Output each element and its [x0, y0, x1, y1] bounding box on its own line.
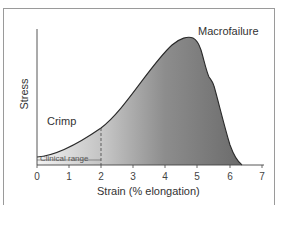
- y-axis-title: Stress: [18, 74, 30, 114]
- x-tick-label: 5: [194, 171, 200, 182]
- x-tick-label: 2: [98, 171, 104, 182]
- clinical-range-annotation: Clinical range: [40, 154, 88, 163]
- x-axis-title: Strain (% elongation): [97, 185, 200, 197]
- x-tick-label: 4: [162, 171, 168, 182]
- crimp-annotation: Crimp: [47, 115, 76, 127]
- x-tick-label: 0: [34, 171, 40, 182]
- x-tick-label: 1: [66, 171, 72, 182]
- x-tick-label: 6: [227, 171, 233, 182]
- x-tick-label: 7: [259, 171, 265, 182]
- macrofailure-annotation: Macrofailure: [198, 25, 259, 37]
- x-tick-label: 3: [130, 171, 136, 182]
- post-clinical-area: [101, 37, 242, 165]
